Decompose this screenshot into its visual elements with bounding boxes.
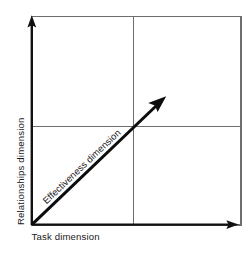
effectiveness-dimension-label: Effectiveness dimension — [40, 127, 122, 206]
x-axis-label: Task dimension — [32, 231, 100, 242]
diagram-canvas: Task dimension Relationships dimension E… — [0, 0, 252, 257]
effectiveness-arrow-line — [32, 106, 156, 224]
effectiveness-grid-diagram: Task dimension Relationships dimension E… — [0, 0, 252, 257]
y-axis-label: Relationships dimension — [15, 118, 26, 225]
